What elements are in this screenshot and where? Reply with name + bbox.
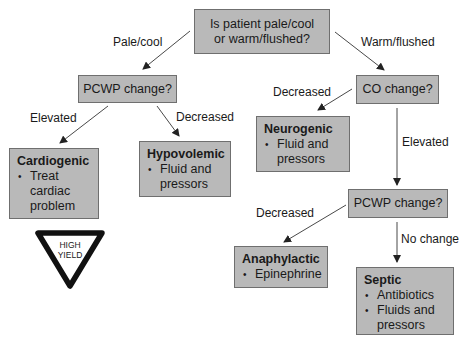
edge-label-warm-flushed: Warm/flushed [361,35,435,49]
edge-label-co-decreased: Decreased [273,85,331,99]
edge-label-right-decreased: Decreased [256,206,314,220]
edge-label-left-decreased: Decreased [176,110,234,124]
high-yield-badge: HIGH YIELD [50,240,90,260]
cardiogenic-node: Cardiogenic Treat cardiac problem [9,148,99,219]
septic-node: Septic Antibiotics Fluids and pressors [356,267,454,335]
pcwp-right-node: PCWP change? [348,189,448,218]
anaphylactic-node: Anaphylactic Epinephrine [234,246,328,288]
hypovolemic-node: Hypovolemic Fluid and pressors [139,141,231,197]
co-change-node: CO change? [356,75,439,104]
neurogenic-node: Neurogenic Fluid and pressors [256,116,350,172]
edge-label-co-elevated: Elevated [402,135,449,149]
edge-label-right-no-change: No change [401,232,459,246]
edge-label-pale-cool: Pale/cool [113,35,162,49]
start-question-node: Is patient pale/cool or warm/flushed? [194,9,330,54]
pcwp-left-node: PCWP change? [78,75,177,103]
edge-label-left-elevated: Elevated [30,111,77,125]
